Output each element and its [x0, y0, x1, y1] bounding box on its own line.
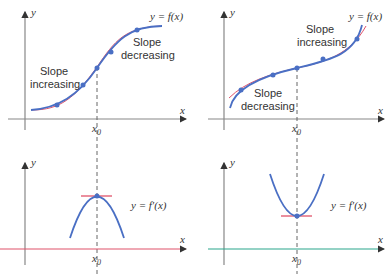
- x-axis-label: x: [179, 233, 185, 245]
- annotation-decreasing: decreasing: [121, 49, 175, 61]
- y-axis-label: y: [30, 6, 36, 18]
- inflection-point-diagram: y x x0 y = f(x) Slope increasing Slope d…: [0, 0, 391, 274]
- annotation-increasing: increasing: [30, 78, 80, 90]
- x-axis-label: x: [377, 104, 383, 116]
- panel-bottom-right: y x x0 y = f′(x): [208, 156, 384, 267]
- x0-tick-label: x0: [91, 122, 101, 137]
- x-axis-label: x: [377, 233, 383, 245]
- curve-label: y = f(x): [149, 10, 183, 23]
- curve-label: y = f(x): [348, 10, 382, 23]
- y-axis-label: y: [30, 156, 36, 168]
- panel-top-right: y x x0 y = f(x) Slope increasing Slope d…: [208, 6, 384, 274]
- annotation-decreasing: decreasing: [241, 100, 295, 112]
- curve-label: y = f′(x): [330, 199, 367, 212]
- annotation-slope: Slope: [40, 65, 68, 77]
- y-axis-label: y: [229, 6, 235, 18]
- min-point: [295, 214, 300, 219]
- x0-tick-label: x0: [291, 252, 301, 267]
- panel-top-left: y x x0 y = f(x) Slope increasing Slope d…: [8, 6, 186, 274]
- max-point: [95, 194, 100, 199]
- y-axis-label: y: [229, 156, 235, 168]
- annotation-slope: Slope: [133, 36, 161, 48]
- x0-tick-label: x0: [291, 122, 301, 137]
- annotation-increasing: increasing: [297, 36, 347, 48]
- x-axis-label: x: [179, 104, 185, 116]
- annotation-slope: Slope: [306, 23, 334, 35]
- curve-label: y = f′(x): [130, 199, 167, 212]
- x0-tick-label: x0: [91, 252, 101, 267]
- panel-bottom-left: y x x0 y = f′(x): [0, 156, 186, 267]
- annotation-slope: Slope: [254, 87, 282, 99]
